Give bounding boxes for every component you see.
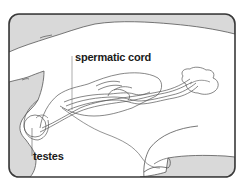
label-spermatic-cord: spermatic cord <box>75 52 151 63</box>
label-testes: testes <box>33 151 64 162</box>
